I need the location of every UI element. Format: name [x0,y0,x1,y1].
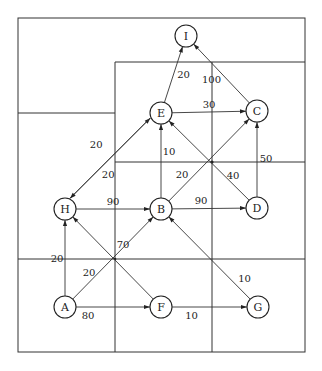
edge-weight-label: 20 [102,169,115,180]
node-label: A [60,301,70,314]
edge-weight-label: 80 [82,310,95,321]
node-a: A [54,296,76,318]
edge-g-to-b [169,217,251,299]
edge-weight-label: 10 [238,273,251,284]
edge-weight-label: 90 [195,195,208,206]
edge-weight-label: 70 [117,239,130,250]
edge-weight-label: 100 [202,74,221,85]
node-b: B [150,198,172,220]
node-c: C [246,100,268,122]
node-i: I [175,25,197,47]
node-e: E [150,102,172,124]
node-h: H [54,198,76,220]
edge-weight-label: 10 [185,310,198,321]
node-label: D [253,202,262,215]
edge-weight-label: 30 [203,99,216,110]
node-label: F [157,301,165,314]
node-f: F [150,296,172,318]
graph-diagram: 20100302020104020509090207020108010 IECH… [0,0,322,371]
edge-e-to-c [172,111,246,113]
edge-weight-label: 90 [107,196,120,207]
node-label: G [254,301,263,314]
edge-weight-label: 20 [177,69,190,80]
node-d: D [246,197,268,219]
node-label: H [60,203,70,216]
edge-weight-label: 50 [260,153,273,164]
node-label: C [253,105,261,118]
node-g: G [247,296,269,318]
edge-weight-label: 40 [227,170,240,181]
node-label: B [157,203,165,216]
node-label: I [184,30,188,43]
edge-weight-label: 20 [51,253,64,264]
edge-weight-label: 20 [176,169,189,180]
edge-b-to-d [172,208,246,209]
node-label: E [157,107,165,120]
edge-weight-label: 20 [90,139,103,150]
edge-e-to-h [70,118,150,198]
edge-weight-label: 20 [83,267,96,278]
edge-weight-label: 10 [163,146,176,157]
